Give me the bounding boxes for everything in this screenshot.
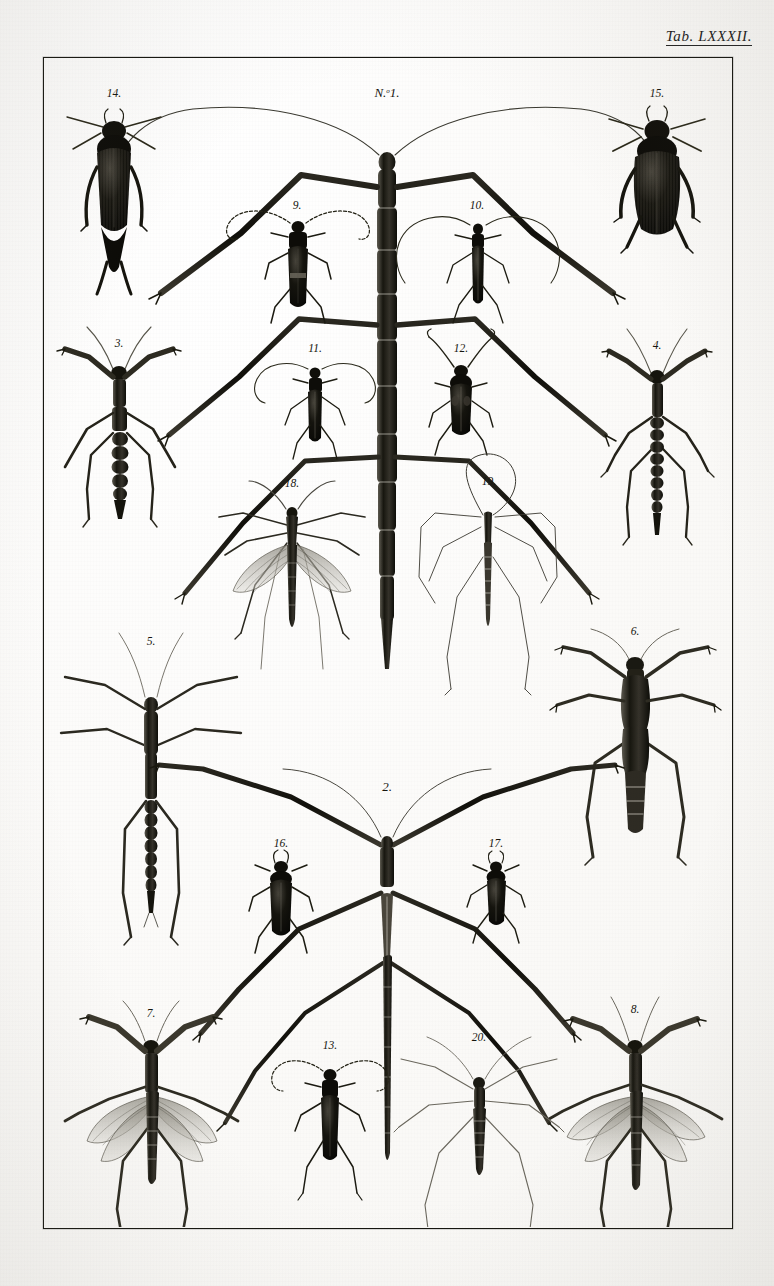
- figure-label-n1: N.o1.: [373, 85, 399, 100]
- figure-label-17: 17.: [489, 837, 503, 849]
- figure-label-16: 16.: [274, 837, 288, 849]
- figure-15-broad-beetle: 15.: [609, 87, 705, 253]
- figure-9-longhorn-beetle: 9.: [227, 199, 370, 323]
- figure-2-stick-insect-lower: 2.: [150, 765, 624, 1160]
- figure-label-8: 8.: [631, 1003, 640, 1015]
- figure-label-11: 11.: [308, 342, 322, 354]
- figure-11-longhorn-beetle: 11.: [255, 342, 376, 459]
- figure-7-winged-mantis: 7.: [65, 1001, 238, 1227]
- plate-artwork: N.o1.: [43, 57, 731, 1227]
- figure-label-5: 5.: [147, 635, 156, 647]
- figure-label-15: 15.: [650, 87, 664, 99]
- figure-14-dark-beetle: 14.: [67, 87, 161, 294]
- figure-3-mantis-nymph: 3.: [57, 327, 181, 527]
- figure-4-mantis-nymph: 4.: [601, 329, 714, 545]
- figure-label-12: 12.: [454, 342, 468, 354]
- figure-label-13: 13.: [323, 1039, 337, 1051]
- figure-13-longhorn-beetle: 13.: [272, 1039, 389, 1200]
- figure-10-slender-longhorn: 10.: [397, 199, 560, 323]
- figure-label-18: 18.: [285, 477, 299, 489]
- figure-6-broad-thorax-insect: 6.: [550, 625, 721, 865]
- plate-tab-number: LXXXII.: [698, 28, 752, 44]
- plate-tab-prefix: Tab.: [666, 28, 694, 44]
- figure-20-long-legged-bug: 20.: [394, 1031, 564, 1227]
- figure-label-7: 7.: [147, 1007, 156, 1019]
- figure-label-20: 20.: [472, 1031, 486, 1043]
- figure-16-oval-beetle: 16.: [249, 837, 313, 953]
- figure-19-crane-fly-outline: 19.: [419, 454, 557, 695]
- figure-12-weevil-beetle: 12.: [427, 329, 494, 455]
- figure-label-9: 9.: [293, 199, 302, 211]
- figure-18-crane-fly: 18.: [219, 477, 365, 669]
- figure-label-6: 6.: [631, 625, 640, 637]
- figure-label-3: 3.: [114, 337, 124, 349]
- figure-label-14: 14.: [107, 87, 121, 99]
- figure-label-19: 19.: [482, 475, 496, 487]
- plate-number-label: Tab. LXXXII.: [666, 28, 752, 45]
- figure-5-walking-stick: 5.: [61, 633, 241, 945]
- engraving-plate: Tab. LXXXII.: [0, 0, 774, 1286]
- figure-label-4: 4.: [653, 339, 662, 351]
- figure-label-2: 2.: [382, 779, 392, 794]
- figure-label-10: 10.: [470, 199, 484, 211]
- figure-n1-giant-stick-insect: N.o1.: [113, 85, 661, 669]
